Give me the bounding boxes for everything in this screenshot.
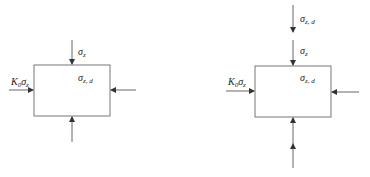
top-stress-label: σz [78, 46, 86, 59]
right-element: σz, d σz σz, d K0σz [226, 5, 359, 168]
lateral-stress-label: K0σz [10, 76, 29, 89]
lateral-stress-label: K0σz [227, 76, 246, 89]
inner-stress-label: σz, d [300, 72, 315, 85]
soil-element-box [34, 65, 110, 116]
left-element: σz σz, d K0σz [9, 40, 136, 142]
added-stress-label: σz, d [300, 13, 315, 26]
soil-element-box [255, 66, 331, 117]
stress-diagrams: σz σz, d K0σz σz, d σz σz, d K0σz [0, 0, 370, 177]
top-stress-label: σz [300, 45, 308, 58]
inner-stress-label: σz, d [78, 72, 93, 85]
